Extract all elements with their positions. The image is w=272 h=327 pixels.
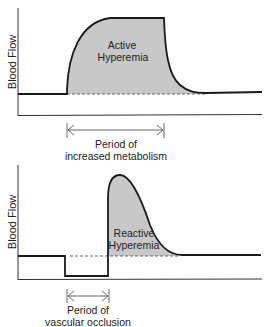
period-label: vascular occlusion xyxy=(45,316,131,327)
period-label: Period of xyxy=(67,304,109,316)
region-label: Reactive xyxy=(114,227,155,239)
region-label: Active xyxy=(108,39,137,51)
x-axis xyxy=(18,115,262,116)
x-axis xyxy=(18,279,262,280)
period-label: increased metabolism xyxy=(65,150,167,162)
region-label: Hyperemia xyxy=(109,239,160,251)
y-axis-label: Blood Flow xyxy=(6,35,18,89)
period-arrow xyxy=(67,289,109,303)
period-label: Period of xyxy=(95,138,137,150)
top-panel-active-hyperemia: Blood Flow Active Hyperemia Period of in… xyxy=(6,8,262,162)
bottom-panel-reactive-hyperemia: Blood Flow Reactive Hyperemia Period of … xyxy=(6,165,262,327)
y-axis-label: Blood Flow xyxy=(6,195,18,249)
period-arrow xyxy=(67,123,164,138)
region-label: Hyperemia xyxy=(98,51,149,63)
